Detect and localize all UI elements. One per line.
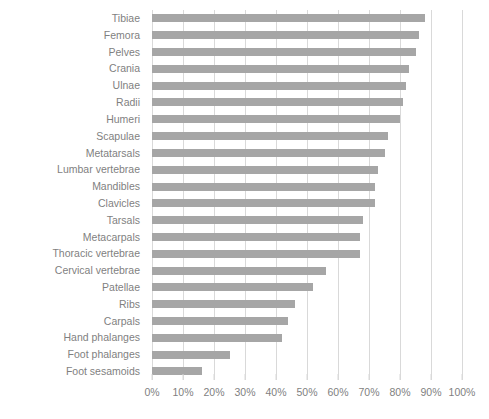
bar-row (152, 195, 462, 212)
bar-rows (152, 10, 462, 380)
category-label: Femora (0, 27, 146, 44)
bar (152, 317, 288, 325)
bar (152, 250, 360, 258)
gridline-100 (462, 10, 463, 380)
tick-label: 60% (327, 386, 348, 398)
tick-mark-90 (431, 374, 432, 380)
tick-mark-10 (183, 374, 184, 380)
bar-row (152, 296, 462, 313)
category-label: Carpals (0, 313, 146, 330)
tick-label: 100% (449, 386, 476, 398)
bar (152, 199, 375, 207)
bar-row (152, 212, 462, 229)
category-label: Humeri (0, 111, 146, 128)
bar-row (152, 279, 462, 296)
bar (152, 14, 425, 22)
bar (152, 149, 385, 157)
category-label: Ribs (0, 296, 146, 313)
tick-mark-80 (400, 374, 401, 380)
category-label: Foot phalanges (0, 346, 146, 363)
tick-mark-60 (338, 374, 339, 380)
bar-row (152, 77, 462, 94)
tick-label: 50% (296, 386, 317, 398)
bar (152, 115, 400, 123)
category-label: Hand phalanges (0, 329, 146, 346)
bar-row (152, 245, 462, 262)
category-label: Radii (0, 94, 146, 111)
bar-row (152, 44, 462, 61)
category-label: Scapulae (0, 128, 146, 145)
bar (152, 216, 363, 224)
tick-label: 20% (203, 386, 224, 398)
bar-row (152, 27, 462, 44)
category-label: Clavicles (0, 195, 146, 212)
bar-row (152, 111, 462, 128)
bar (152, 98, 403, 106)
bar (152, 65, 409, 73)
tick-label: 70% (358, 386, 379, 398)
tick-label: 40% (265, 386, 286, 398)
bar-row (152, 178, 462, 195)
tick-label: 0% (144, 386, 159, 398)
tick-mark-30 (245, 374, 246, 380)
bar (152, 183, 375, 191)
bar-row (152, 94, 462, 111)
category-label: Cervical vertebrae (0, 262, 146, 279)
bar-row (152, 262, 462, 279)
bar (152, 31, 419, 39)
tick-mark-0 (152, 374, 153, 380)
category-label: Thoracic vertebrae (0, 245, 146, 262)
bar (152, 166, 378, 174)
bar (152, 82, 406, 90)
bar (152, 132, 388, 140)
bar-row (152, 313, 462, 330)
bar-row (152, 60, 462, 77)
bar (152, 351, 230, 359)
category-axis-labels: TibiaeFemoraPelvesCraniaUlnaeRadiiHumeri… (0, 10, 146, 380)
tick-label: 30% (234, 386, 255, 398)
category-label: Ulnae (0, 77, 146, 94)
category-label: Crania (0, 60, 146, 77)
bar (152, 300, 295, 308)
bar (152, 283, 313, 291)
category-label: Tibiae (0, 10, 146, 27)
tick-label: 90% (420, 386, 441, 398)
category-label: Pelves (0, 44, 146, 61)
category-label: Metacarpals (0, 229, 146, 246)
tick-label: 80% (389, 386, 410, 398)
category-label: Tarsals (0, 212, 146, 229)
category-label: Mandibles (0, 178, 146, 195)
bar-row (152, 145, 462, 162)
bar (152, 267, 326, 275)
bar (152, 367, 202, 375)
tick-label: 10% (172, 386, 193, 398)
bar-chart: TibiaeFemoraPelvesCraniaUlnaeRadiiHumeri… (0, 0, 489, 419)
bar (152, 48, 416, 56)
bar-row (152, 346, 462, 363)
category-label: Metatarsals (0, 145, 146, 162)
category-label: Foot sesamoids (0, 363, 146, 380)
category-label: Patellae (0, 279, 146, 296)
value-axis: 0%10%20%30%40%50%60%70%80%90%100% (152, 382, 462, 406)
tick-mark-100 (462, 374, 463, 380)
tick-mark-40 (276, 374, 277, 380)
bar (152, 334, 282, 342)
plot-area (152, 10, 462, 380)
tick-mark-20 (214, 374, 215, 380)
bar-row (152, 329, 462, 346)
tick-mark-50 (307, 374, 308, 380)
bar-row (152, 10, 462, 27)
bar-row (152, 229, 462, 246)
category-label: Lumbar vertebrae (0, 161, 146, 178)
bar-row (152, 161, 462, 178)
bar (152, 233, 360, 241)
bar-row (152, 128, 462, 145)
tick-mark-70 (369, 374, 370, 380)
